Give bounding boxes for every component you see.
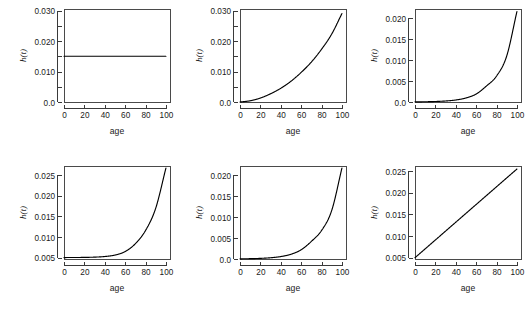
y-tick-label: 0.020	[210, 172, 231, 181]
y-axis-title: h(t)	[369, 206, 379, 219]
y-tick-label: 0.0	[395, 99, 407, 108]
x-tick-label: 80	[493, 268, 503, 277]
y-tick-label: 0.0	[219, 256, 231, 265]
y-axis: 0.0050.0100.0150.0200.025	[35, 172, 62, 264]
x-tick-label: 40	[452, 268, 462, 277]
x-tick-label: 20	[256, 111, 266, 120]
y-tick-label: 0.015	[386, 211, 407, 220]
y-axis-title: h(t)	[194, 206, 204, 219]
x-tick-label: 40	[101, 268, 111, 277]
hazard-plot-panel-1: 0.00.0100.0200.030020406080100ageh(t)	[0, 0, 175, 157]
x-tick-label: 40	[452, 111, 462, 120]
hazard-plot-panel-5: 0.00.0050.0100.0150.020020406080100ageh(…	[176, 157, 351, 314]
x-tick-label: 80	[493, 111, 503, 120]
y-tick-label: 0.030	[35, 7, 56, 16]
x-tick-label: 80	[317, 111, 327, 120]
x-tick-label: 0	[62, 268, 67, 277]
x-axis: 020406080100	[238, 262, 349, 278]
hazard-curve	[240, 168, 342, 259]
hazard-plot-panel-4: 0.0050.0100.0150.0200.025020406080100age…	[0, 157, 175, 314]
x-tick-label: 60	[121, 268, 131, 277]
y-tick-label: 0.030	[210, 7, 231, 16]
y-tick-label: 0.010	[210, 68, 231, 77]
y-tick-label: 0.015	[35, 213, 56, 222]
y-tick-label: 0.010	[386, 57, 407, 66]
x-tick-label: 40	[276, 111, 286, 120]
x-tick-label: 60	[472, 111, 482, 120]
y-axis-title: h(t)	[194, 49, 204, 62]
x-axis-title: age	[110, 283, 125, 293]
x-tick-label: 100	[160, 111, 174, 120]
x-tick-label: 20	[80, 268, 90, 277]
x-tick-label: 80	[317, 268, 327, 277]
x-tick-label: 20	[256, 268, 266, 277]
x-tick-label: 40	[101, 111, 111, 120]
y-axis-title: h(t)	[18, 206, 28, 219]
x-tick-label: 0	[414, 268, 419, 277]
y-axis-title: h(t)	[369, 49, 379, 62]
x-axis-title: age	[285, 283, 300, 293]
x-axis: 020406080100	[62, 262, 173, 278]
y-axis: 0.00.0100.0200.030	[210, 7, 237, 107]
x-axis-title: age	[110, 126, 125, 136]
y-tick-label: 0.020	[210, 38, 231, 47]
y-axis: 0.00.0100.0200.030	[35, 7, 62, 107]
x-tick-label: 100	[160, 268, 174, 277]
y-tick-label: 0.0	[219, 99, 231, 108]
x-axis: 020406080100	[414, 105, 525, 121]
hazard-curve	[240, 14, 342, 102]
x-tick-label: 20	[432, 111, 442, 120]
x-tick-label: 100	[511, 268, 525, 277]
hazard-curve	[64, 168, 166, 257]
y-tick-label: 0.005	[386, 254, 407, 263]
x-tick-label: 0	[62, 111, 67, 120]
hazard-curve	[415, 12, 517, 102]
x-tick-label: 20	[432, 268, 442, 277]
hazard-plot-panel-6: 0.0050.0100.0150.0200.025020406080100age…	[351, 157, 526, 314]
x-tick-label: 20	[80, 111, 90, 120]
y-axis: 0.0050.0100.0150.0200.025	[386, 168, 413, 264]
y-axis: 0.00.0050.0100.0150.020	[210, 172, 237, 265]
y-tick-label: 0.025	[386, 168, 407, 177]
x-axis: 020406080100	[414, 262, 525, 278]
y-tick-label: 0.010	[35, 68, 56, 77]
y-tick-label: 0.010	[35, 234, 56, 243]
plot-frame	[416, 10, 522, 103]
x-axis-title: age	[461, 283, 476, 293]
hazard-function-panel-grid: 0.00.0100.0200.030020406080100ageh(t)0.0…	[0, 0, 527, 314]
x-axis-title: age	[285, 126, 300, 136]
plot-frame	[416, 167, 522, 260]
x-tick-label: 80	[141, 111, 151, 120]
x-axis-title: age	[461, 126, 476, 136]
y-tick-label: 0.010	[210, 214, 231, 223]
y-tick-label: 0.020	[35, 38, 56, 47]
x-tick-label: 60	[472, 268, 482, 277]
y-tick-label: 0.020	[386, 189, 407, 198]
y-axis: 0.00.0050.0100.0150.020	[386, 15, 413, 108]
y-tick-label: 0.005	[35, 254, 56, 263]
hazard-plot-panel-3: 0.00.0050.0100.0150.020020406080100ageh(…	[351, 0, 526, 157]
y-tick-label: 0.015	[386, 36, 407, 45]
x-tick-label: 100	[335, 268, 349, 277]
y-tick-label: 0.020	[35, 192, 56, 201]
x-tick-label: 60	[297, 268, 307, 277]
x-tick-label: 80	[141, 268, 151, 277]
hazard-curve	[415, 169, 517, 258]
x-tick-label: 100	[335, 111, 349, 120]
y-tick-label: 0.025	[35, 172, 56, 181]
x-tick-label: 60	[121, 111, 131, 120]
x-tick-label: 40	[276, 268, 286, 277]
x-tick-label: 60	[297, 111, 307, 120]
y-tick-label: 0.0	[44, 99, 56, 108]
y-tick-label: 0.020	[386, 15, 407, 24]
y-tick-label: 0.005	[210, 235, 231, 244]
hazard-plot-panel-2: 0.00.0100.0200.030020406080100ageh(t)	[176, 0, 351, 157]
y-tick-label: 0.015	[210, 193, 231, 202]
x-axis: 020406080100	[62, 105, 173, 121]
y-tick-label: 0.010	[386, 233, 407, 242]
x-tick-label: 0	[414, 111, 419, 120]
x-axis: 020406080100	[238, 105, 349, 121]
y-axis-title: h(t)	[18, 49, 28, 62]
x-tick-label: 100	[511, 111, 525, 120]
plot-frame	[240, 10, 346, 103]
